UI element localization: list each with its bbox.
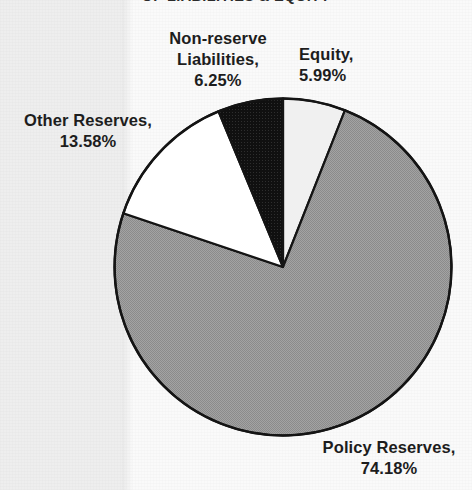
slice-label-policy-reserves: Policy Reserves, 74.18% [306,437,472,479]
slice-label-non-reserve-liabilities: Non-reserve Liabilities, 6.25% [152,28,284,91]
slice-label-equity: Equity, 5.99% [299,44,391,86]
pie-chart-figure: OF LIABILITIES & EQUITY Non-reserve Liab… [0,0,472,490]
slice-label-other-reserves: Other Reserves, 13.58% [6,110,170,152]
